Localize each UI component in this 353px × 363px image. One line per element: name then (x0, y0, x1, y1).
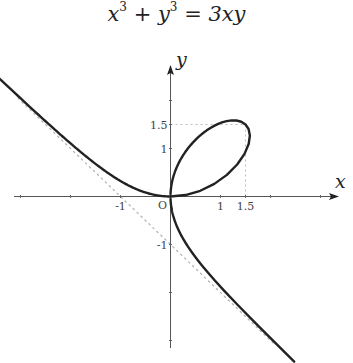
origin-label: O (158, 199, 167, 212)
plot-area: -111.51.51-1 x y O (0, 0, 353, 363)
y-tick-label: -1 (157, 239, 168, 252)
x-axis-label: x (335, 170, 346, 192)
folium-curve (0, 76, 294, 362)
y-tick-label: 1 (161, 143, 168, 156)
x-tick-label: 1 (217, 200, 224, 213)
asymptote-line (18, 98, 276, 345)
y-axis-label: y (175, 48, 187, 70)
y-tick-label: 1.5 (150, 119, 168, 132)
tick-labels: -111.51.51-1 (115, 119, 254, 252)
x-tick-label: 1.5 (237, 200, 255, 213)
x-tick-label: -1 (115, 200, 126, 213)
